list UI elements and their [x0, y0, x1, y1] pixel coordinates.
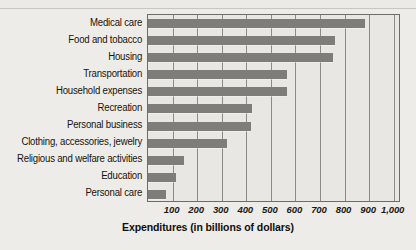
bar-row	[148, 83, 399, 100]
bar-transportation	[148, 70, 287, 79]
bar-row	[148, 135, 399, 152]
plot-area	[147, 14, 400, 202]
bar-row	[148, 15, 399, 32]
bar-clothing-accessories-jewelry	[148, 139, 227, 148]
category-label: Housing	[6, 48, 145, 65]
bar-row	[148, 186, 399, 203]
category-axis-labels: Medical careFood and tobaccoHousingTrans…	[0, 14, 145, 202]
bar-religious-and-welfare-activities	[148, 156, 184, 165]
x-tick-800: 800	[336, 204, 352, 215]
category-label: Religious and welfare activities	[6, 151, 145, 168]
bar-personal-business	[148, 122, 251, 131]
bar-row	[148, 169, 399, 186]
x-tick-400: 400	[237, 204, 253, 215]
category-label: Personal business	[6, 116, 145, 133]
bar-recreation	[148, 104, 252, 113]
x-tick-900: 900	[360, 204, 376, 215]
x-axis-title: Expenditures (in billions of dollars)	[0, 221, 416, 233]
category-label: Personal care	[6, 185, 145, 202]
bar-food-and-tobacco	[148, 36, 335, 45]
x-tick-300: 300	[213, 204, 229, 215]
bar-housing	[148, 53, 333, 62]
x-tick-200: 200	[188, 204, 204, 215]
category-label: Transportation	[6, 65, 145, 82]
bar-row	[148, 66, 399, 83]
category-label: Recreation	[6, 99, 145, 116]
bar-row	[148, 117, 399, 134]
x-tick-700: 700	[311, 204, 327, 215]
bar-education	[148, 173, 176, 182]
bar-household-expenses	[148, 87, 287, 96]
category-label: Food and tobacco	[6, 31, 145, 48]
category-label: Education	[6, 168, 145, 185]
bar-row	[148, 100, 399, 117]
x-tick-500: 500	[262, 204, 278, 215]
x-tick-1000: 1,000	[381, 204, 404, 215]
bar-row	[148, 32, 399, 49]
x-axis-tick-labels: 1002003004005006007008009001,000	[147, 204, 400, 218]
x-tick-600: 600	[287, 204, 303, 215]
bar-personal-care	[148, 190, 166, 199]
bar-chart: Medical careFood and tobaccoHousingTrans…	[0, 9, 416, 250]
x-tick-100: 100	[164, 204, 180, 215]
category-label: Medical care	[6, 14, 145, 31]
category-label: Clothing, accessories, jewelry	[6, 134, 145, 151]
bar-row	[148, 49, 399, 66]
bar-medical-care	[148, 19, 365, 28]
bar-row	[148, 152, 399, 169]
bar-series	[148, 15, 399, 201]
category-label: Household expenses	[6, 82, 145, 99]
